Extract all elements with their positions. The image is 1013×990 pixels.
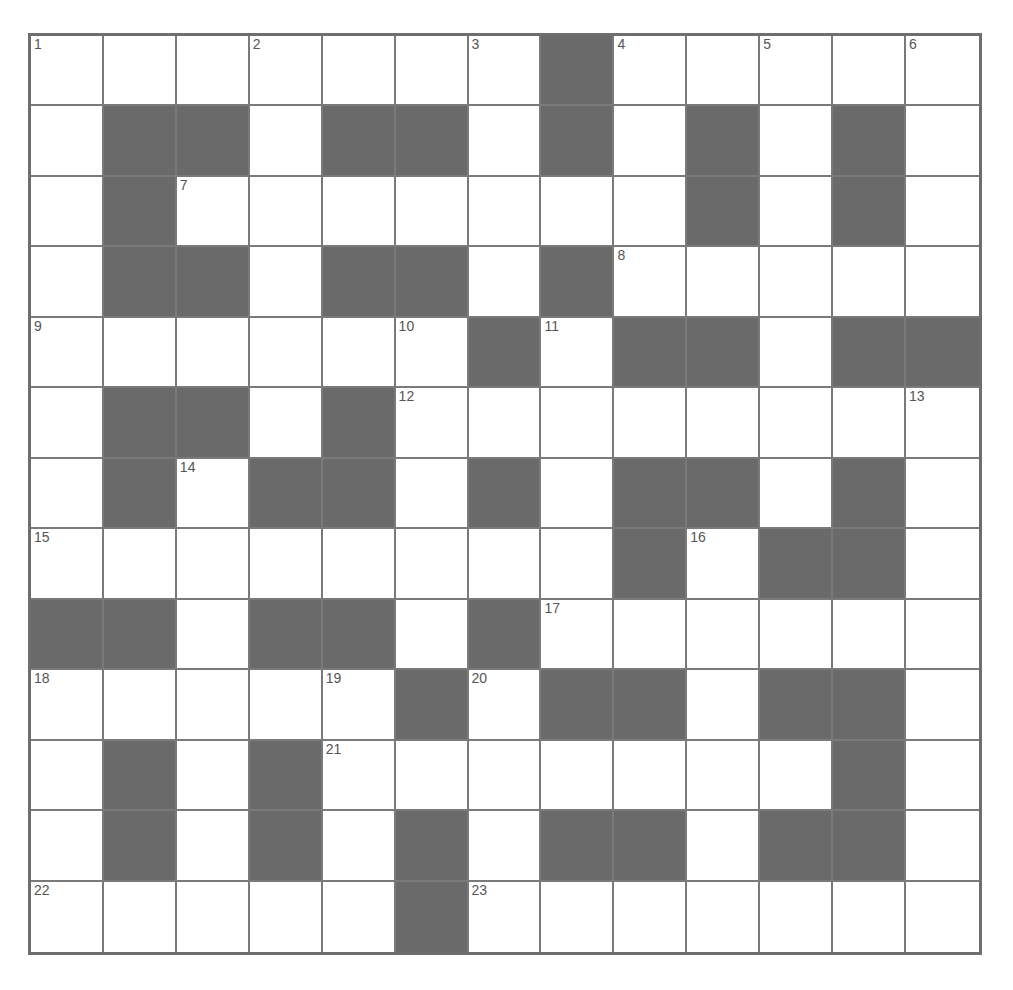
- answer-cell[interactable]: [687, 247, 760, 317]
- answer-cell[interactable]: 10: [396, 318, 469, 388]
- answer-cell[interactable]: [760, 106, 833, 176]
- answer-cell[interactable]: [250, 529, 323, 599]
- answer-cell[interactable]: [614, 388, 687, 458]
- answer-cell[interactable]: [906, 600, 979, 670]
- answer-cell[interactable]: [906, 670, 979, 740]
- answer-cell[interactable]: [250, 106, 323, 176]
- answer-cell[interactable]: [323, 177, 396, 247]
- answer-cell[interactable]: [687, 600, 760, 670]
- answer-cell[interactable]: [104, 882, 177, 952]
- answer-cell[interactable]: 2: [250, 36, 323, 106]
- answer-cell[interactable]: [396, 459, 469, 529]
- answer-cell[interactable]: [250, 318, 323, 388]
- answer-cell[interactable]: [177, 882, 250, 952]
- answer-cell[interactable]: [906, 177, 979, 247]
- answer-cell[interactable]: [250, 882, 323, 952]
- answer-cell[interactable]: [687, 388, 760, 458]
- answer-cell[interactable]: [760, 741, 833, 811]
- answer-cell[interactable]: [906, 247, 979, 317]
- answer-cell[interactable]: 14: [177, 459, 250, 529]
- answer-cell[interactable]: 18: [31, 670, 104, 740]
- answer-cell[interactable]: [833, 36, 906, 106]
- answer-cell[interactable]: [541, 741, 614, 811]
- answer-cell[interactable]: 4: [614, 36, 687, 106]
- answer-cell[interactable]: 5: [760, 36, 833, 106]
- answer-cell[interactable]: [177, 600, 250, 670]
- answer-cell[interactable]: [177, 36, 250, 106]
- answer-cell[interactable]: [906, 811, 979, 881]
- answer-cell[interactable]: [541, 177, 614, 247]
- answer-cell[interactable]: [323, 318, 396, 388]
- answer-cell[interactable]: [833, 882, 906, 952]
- answer-cell[interactable]: [396, 741, 469, 811]
- answer-cell[interactable]: [323, 529, 396, 599]
- answer-cell[interactable]: [31, 388, 104, 458]
- answer-cell[interactable]: 17: [541, 600, 614, 670]
- answer-cell[interactable]: [614, 882, 687, 952]
- answer-cell[interactable]: [250, 670, 323, 740]
- answer-cell[interactable]: [469, 811, 542, 881]
- answer-cell[interactable]: [177, 670, 250, 740]
- answer-cell[interactable]: [833, 388, 906, 458]
- answer-cell[interactable]: 7: [177, 177, 250, 247]
- answer-cell[interactable]: [760, 459, 833, 529]
- answer-cell[interactable]: [31, 106, 104, 176]
- answer-cell[interactable]: [906, 741, 979, 811]
- answer-cell[interactable]: [687, 741, 760, 811]
- answer-cell[interactable]: [469, 529, 542, 599]
- answer-cell[interactable]: [760, 247, 833, 317]
- answer-cell[interactable]: [323, 882, 396, 952]
- answer-cell[interactable]: [469, 106, 542, 176]
- answer-cell[interactable]: [687, 811, 760, 881]
- answer-cell[interactable]: [760, 600, 833, 670]
- answer-cell[interactable]: [104, 670, 177, 740]
- answer-cell[interactable]: 16: [687, 529, 760, 599]
- answer-cell[interactable]: [323, 36, 396, 106]
- answer-cell[interactable]: [760, 388, 833, 458]
- answer-cell[interactable]: 22: [31, 882, 104, 952]
- answer-cell[interactable]: [250, 388, 323, 458]
- answer-cell[interactable]: [614, 600, 687, 670]
- answer-cell[interactable]: [541, 882, 614, 952]
- answer-cell[interactable]: [687, 882, 760, 952]
- answer-cell[interactable]: 3: [469, 36, 542, 106]
- answer-cell[interactable]: [906, 882, 979, 952]
- answer-cell[interactable]: [104, 318, 177, 388]
- answer-cell[interactable]: [469, 247, 542, 317]
- answer-cell[interactable]: [541, 529, 614, 599]
- answer-cell[interactable]: [614, 177, 687, 247]
- answer-cell[interactable]: [469, 741, 542, 811]
- answer-cell[interactable]: [31, 177, 104, 247]
- answer-cell[interactable]: 12: [396, 388, 469, 458]
- answer-cell[interactable]: [31, 811, 104, 881]
- answer-cell[interactable]: [250, 177, 323, 247]
- answer-cell[interactable]: 20: [469, 670, 542, 740]
- answer-cell[interactable]: [396, 36, 469, 106]
- answer-cell[interactable]: [177, 741, 250, 811]
- answer-cell[interactable]: 8: [614, 247, 687, 317]
- answer-cell[interactable]: 19: [323, 670, 396, 740]
- answer-cell[interactable]: 15: [31, 529, 104, 599]
- answer-cell[interactable]: [906, 459, 979, 529]
- answer-cell[interactable]: [177, 811, 250, 881]
- answer-cell[interactable]: [760, 318, 833, 388]
- answer-cell[interactable]: [31, 459, 104, 529]
- answer-cell[interactable]: [323, 811, 396, 881]
- answer-cell[interactable]: [833, 600, 906, 670]
- answer-cell[interactable]: [541, 388, 614, 458]
- answer-cell[interactable]: 11: [541, 318, 614, 388]
- answer-cell[interactable]: [760, 177, 833, 247]
- answer-cell[interactable]: [396, 529, 469, 599]
- answer-cell[interactable]: [104, 36, 177, 106]
- answer-cell[interactable]: [833, 247, 906, 317]
- answer-cell[interactable]: [31, 741, 104, 811]
- answer-cell[interactable]: [250, 247, 323, 317]
- answer-cell[interactable]: [469, 388, 542, 458]
- answer-cell[interactable]: [396, 600, 469, 670]
- answer-cell[interactable]: 21: [323, 741, 396, 811]
- answer-cell[interactable]: [906, 106, 979, 176]
- answer-cell[interactable]: 13: [906, 388, 979, 458]
- answer-cell[interactable]: [396, 177, 469, 247]
- answer-cell[interactable]: [687, 36, 760, 106]
- answer-cell[interactable]: [177, 529, 250, 599]
